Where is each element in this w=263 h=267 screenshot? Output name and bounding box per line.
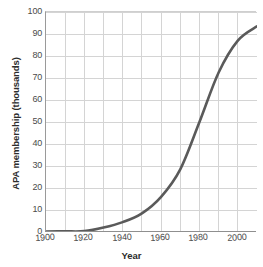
x-axis-title: Year <box>0 250 263 261</box>
y-tick-label: 80 <box>14 51 42 60</box>
x-tick-label: 1940 <box>112 232 132 243</box>
y-tick-label: 60 <box>14 95 42 104</box>
x-tick-label: 2000 <box>227 232 247 243</box>
plot-area <box>45 11 256 231</box>
y-tick-label: 100 <box>14 7 42 16</box>
y-tick-label: 50 <box>14 117 42 126</box>
x-tick-label: 1980 <box>188 232 208 243</box>
y-tick-label: 20 <box>14 183 42 192</box>
x-tick-label: 1960 <box>150 232 170 243</box>
series-path <box>46 26 257 231</box>
x-tick-label: 1900 <box>35 232 55 243</box>
data-series-line <box>46 12 257 232</box>
chart-container: APA membership (thousands) 0102030405060… <box>0 0 263 267</box>
y-tick-label: 10 <box>14 205 42 214</box>
x-tick-label: 1920 <box>73 232 93 243</box>
y-tick-label: 70 <box>14 73 42 82</box>
y-tick-label: 40 <box>14 139 42 148</box>
y-tick-label: 90 <box>14 29 42 38</box>
y-tick-label: 30 <box>14 161 42 170</box>
y-axis-tick-labels: 0102030405060708090100 <box>14 0 42 267</box>
